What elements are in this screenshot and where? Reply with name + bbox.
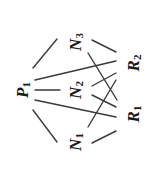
edge-n3-r2 xyxy=(92,40,116,52)
node-label: N3 xyxy=(66,33,86,52)
node-subscript: 1 xyxy=(20,82,32,88)
node-n3: N3 xyxy=(66,33,86,52)
edge-p1-r2 xyxy=(35,61,116,80)
nodes-group: P1N3N2N1R2R1 xyxy=(13,33,144,152)
node-subscript: 1 xyxy=(73,133,85,139)
edge-p1-r1 xyxy=(35,100,116,117)
node-letter: N xyxy=(66,38,85,52)
node-n1: N1 xyxy=(66,133,86,152)
node-letter: N xyxy=(66,86,85,100)
node-label: R1 xyxy=(124,106,144,124)
node-label: P1 xyxy=(13,82,33,99)
edge-n2-r2 xyxy=(92,73,116,86)
node-r1: R1 xyxy=(124,106,144,124)
edge-n1-r2 xyxy=(88,80,116,127)
node-label: N1 xyxy=(66,133,86,152)
node-subscript: 1 xyxy=(131,106,143,112)
node-subscript: 3 xyxy=(73,33,85,39)
node-label: N2 xyxy=(66,81,86,100)
edge-n3-r1 xyxy=(88,53,117,100)
node-r2: R2 xyxy=(124,54,144,72)
edge-p1-n1 xyxy=(33,110,57,142)
node-letter: R xyxy=(124,60,143,72)
node-p1: P1 xyxy=(13,82,33,99)
node-n2: N2 xyxy=(66,81,86,100)
node-label: R2 xyxy=(124,54,144,72)
node-subscript: 2 xyxy=(131,54,143,60)
node-letter: R xyxy=(124,111,143,123)
graph-diagram: P1N3N2N1R2R1 xyxy=(0,0,152,178)
node-subscript: 2 xyxy=(73,81,85,87)
node-letter: P xyxy=(13,87,32,99)
edge-n1-r1 xyxy=(92,131,116,143)
edge-p1-n3 xyxy=(33,39,57,68)
node-letter: N xyxy=(66,138,85,152)
